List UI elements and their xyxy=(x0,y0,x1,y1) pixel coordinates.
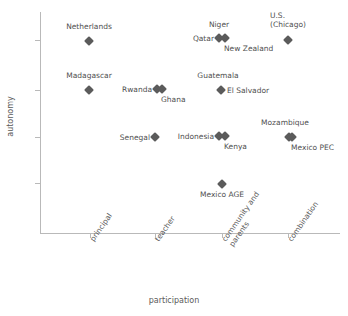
point-label: Mozambique xyxy=(261,118,309,127)
y-axis-line xyxy=(40,12,41,234)
point-label: Netherlands xyxy=(66,22,112,31)
y-axis-tick-2 xyxy=(35,137,40,138)
point-label: Qatar xyxy=(193,34,214,43)
y-axis-tick-3 xyxy=(35,183,40,184)
point-label: Rwanda xyxy=(122,85,152,94)
point-label: Senegal xyxy=(120,133,150,142)
point-label: Madagascar xyxy=(66,71,112,80)
data-marker xyxy=(84,85,94,95)
data-marker xyxy=(220,33,230,43)
scatter-plot: principalteachercommunity and parentscom… xyxy=(0,0,348,316)
data-marker xyxy=(217,179,227,189)
x-tick-label-1: teacher xyxy=(153,214,177,243)
data-marker xyxy=(150,132,160,142)
point-label: Guatemala xyxy=(197,71,238,80)
point-label: New Zealand xyxy=(224,44,273,53)
y-axis-title: autonomy xyxy=(6,87,15,147)
x-tick-label-3: combination xyxy=(286,200,320,244)
y-axis-tick-0 xyxy=(35,40,40,41)
data-marker xyxy=(84,36,94,46)
point-label: U.S. (Chicago) xyxy=(270,11,306,29)
data-marker xyxy=(157,84,167,94)
data-marker xyxy=(283,35,293,45)
point-label: Ghana xyxy=(161,95,186,104)
x-tick-label-0: principal xyxy=(88,212,114,244)
point-label: Mexico AGE xyxy=(200,190,244,199)
x-axis-title: participation xyxy=(0,296,348,305)
point-label: Kenya xyxy=(224,142,247,151)
y-axis-tick-1 xyxy=(35,90,40,91)
point-label: Mexico PEC xyxy=(291,143,334,152)
point-label: El Salvador xyxy=(227,86,269,95)
point-label: Niger xyxy=(209,20,229,29)
data-marker xyxy=(216,85,226,95)
data-marker xyxy=(220,131,230,141)
point-label: Indonesia xyxy=(178,132,214,141)
